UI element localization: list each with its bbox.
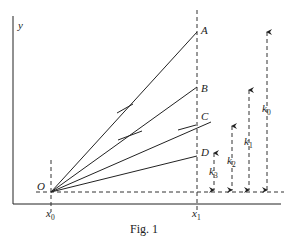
line-OB [51,87,197,192]
k3-label: k3 [209,165,218,180]
point-C-label: C [201,110,209,122]
line-OC [51,122,211,192]
point-D-label: D [200,146,209,158]
k0-label: k0 [262,102,271,117]
figure-caption: Fig. 1 [130,222,158,236]
tangent-mark-1 [117,104,133,113]
line-OD [51,156,197,192]
line-OA [51,32,197,192]
point-A-label: A [200,24,208,36]
tangent-mark-2 [118,131,142,140]
point-B-label: B [201,82,208,94]
diagram: y O A B C D k3 k2 k1 k0 x0 x1 Fig. 1 [0,0,292,238]
x0-label: x0 [45,207,55,222]
x1-label: x1 [191,207,201,222]
k2-label: k2 [227,154,236,169]
origin-label: O [37,180,45,192]
y-axis-label: y [17,19,23,31]
k1-label: k1 [244,135,253,150]
